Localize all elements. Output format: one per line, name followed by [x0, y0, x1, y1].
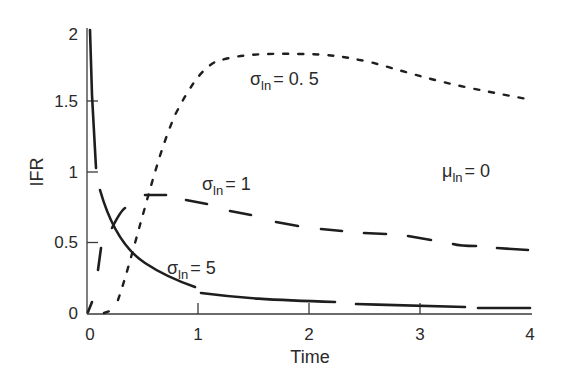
y-tick-label: 2	[69, 25, 78, 44]
sigma-1-segment	[276, 222, 298, 226]
ifr-chart: 0 0.5 1 1.5 2 0 1 2 3 4 Time IFR	[0, 0, 562, 386]
sigma-1-segment	[186, 200, 207, 204]
y-tick-label: 1	[69, 163, 78, 182]
y-tick-label: 0	[69, 304, 78, 323]
y-tick-label: 1.5	[54, 92, 78, 111]
sigma-5-segment	[90, 30, 96, 168]
x-tick-label: 0	[85, 325, 94, 344]
x-tick-label: 3	[415, 325, 424, 344]
x-tick-labels: 0 1 2 3 4	[85, 325, 534, 344]
y-axis-title: IFR	[27, 158, 47, 187]
sigma-1-segment	[230, 211, 251, 215]
annotation-sigma-1: σln= 1	[202, 174, 251, 198]
sigma-5-segment	[201, 293, 335, 302]
sigma-1-segment	[112, 208, 125, 228]
x-axis-title: Time	[290, 347, 329, 367]
sigma-1-segment	[497, 248, 528, 250]
x-tick-label: 4	[525, 325, 534, 344]
x-tick-label: 1	[193, 325, 202, 344]
y-tick-label: 0.5	[54, 233, 78, 252]
sigma-1-segment	[453, 244, 476, 246]
annotation-sigma-05: σln= 0. 5	[250, 69, 319, 93]
series-sigma-1	[88, 195, 528, 312]
annotation-mu: μln= 0	[442, 161, 490, 185]
sigma-1-segment	[98, 248, 101, 270]
sigma-1-segment	[408, 236, 431, 240]
sigma-1-segment	[88, 302, 92, 312]
x-tick-label: 2	[304, 325, 313, 344]
y-tick-labels: 0 0.5 1 1.5 2	[54, 25, 78, 323]
sigma-1-segment	[364, 233, 386, 234]
sigma-5-segment	[356, 304, 465, 307]
sigma-1-segment	[321, 229, 342, 231]
